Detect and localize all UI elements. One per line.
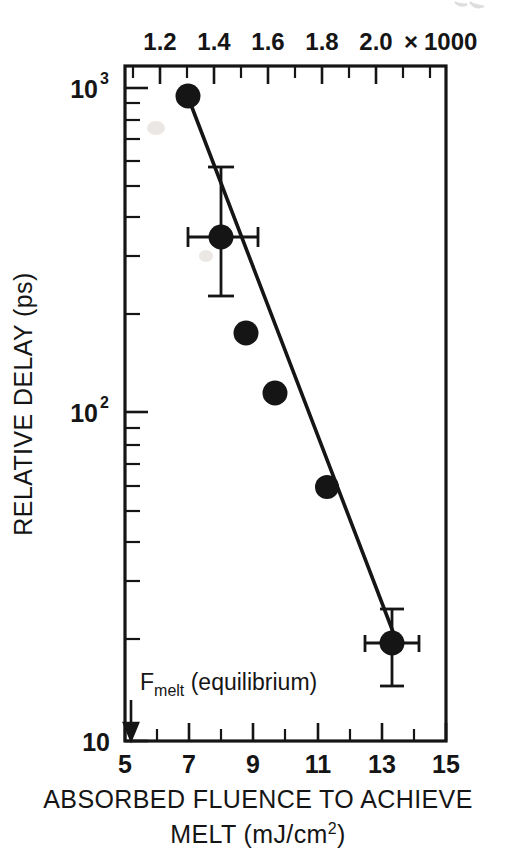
top-axis-multiplier-value: 1000 bbox=[424, 28, 477, 55]
y-axis-ticks bbox=[125, 88, 148, 741]
y-tick-label-10: 10 bbox=[82, 728, 110, 756]
y-axis-title: RELATIVE DELAY (ps) bbox=[9, 272, 37, 535]
data-point-3 bbox=[234, 321, 259, 346]
data-point-4 bbox=[263, 381, 288, 406]
y-tick-1000-mantissa: 10 bbox=[70, 75, 98, 103]
x-axis-title-prefix: MELT (mJ/cm bbox=[170, 820, 328, 848]
y-tick-100-exponent: 2 bbox=[100, 394, 109, 411]
chart-svg: 1.2 1.4 1.6 1.8 2.0 × 1000 5 7 9 11 13 1… bbox=[0, 0, 517, 861]
top-tick-label-3: 1.6 bbox=[251, 28, 284, 55]
top-tick-label-1: 1.2 bbox=[143, 28, 176, 55]
x-tick-label-9: 9 bbox=[246, 750, 260, 778]
x-axis-title-suffix: ) bbox=[337, 820, 346, 848]
y-tick-1000-exponent: 3 bbox=[100, 70, 109, 87]
fmelt-symbol: F bbox=[140, 669, 154, 695]
x-tick-label-11: 11 bbox=[305, 750, 332, 778]
fmelt-subscript: melt bbox=[154, 682, 185, 699]
bottom-axis-ticks bbox=[125, 723, 446, 741]
paper-smudge-2 bbox=[199, 250, 213, 262]
data-point-2 bbox=[209, 225, 234, 250]
y-tick-label-100: 10 2 bbox=[70, 394, 109, 427]
x-tick-label-13: 13 bbox=[368, 750, 396, 778]
top-axis-ticks bbox=[133, 66, 430, 84]
top-axis-multiplier-symbol: × bbox=[404, 28, 418, 55]
top-tick-label-2: 1.4 bbox=[197, 28, 231, 55]
x-tick-label-7: 7 bbox=[182, 750, 196, 778]
x-tick-label-15: 15 bbox=[432, 750, 460, 778]
top-tick-label-5: 2.0 bbox=[359, 28, 392, 55]
y-tick-100-mantissa: 10 bbox=[70, 399, 98, 427]
x-tick-label-5: 5 bbox=[118, 750, 132, 778]
scan-artifact bbox=[455, 2, 484, 7]
x-axis-title-line2: MELT (mJ/cm2) bbox=[170, 820, 346, 848]
data-point-5 bbox=[315, 475, 339, 499]
top-tick-label-4: 1.8 bbox=[305, 28, 338, 55]
y-tick-label-1000: 10 3 bbox=[70, 70, 109, 103]
svg-text:Fmelt (equilibrium): Fmelt (equilibrium) bbox=[140, 669, 317, 699]
data-point-6 bbox=[380, 631, 405, 656]
x-axis-title-line1: ABSORBED FLUENCE TO ACHIEVE bbox=[43, 785, 472, 813]
fmelt-suffix: (equilibrium) bbox=[184, 669, 317, 695]
figure-container: 1.2 1.4 1.6 1.8 2.0 × 1000 5 7 9 11 13 1… bbox=[0, 0, 517, 861]
x-axis-title-sup: 2 bbox=[328, 820, 337, 837]
data-point-1 bbox=[176, 84, 201, 109]
paper-smudge bbox=[147, 121, 165, 135]
